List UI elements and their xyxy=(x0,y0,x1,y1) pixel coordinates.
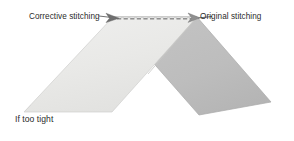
corrective-stitching-label: Corrective stitching xyxy=(29,12,100,22)
figure-caption: If too tight xyxy=(15,114,53,124)
original-stitching-label: Original stitching xyxy=(200,12,261,22)
sewing-correction-figure: Corrective stitching Original stitching … xyxy=(0,0,294,141)
